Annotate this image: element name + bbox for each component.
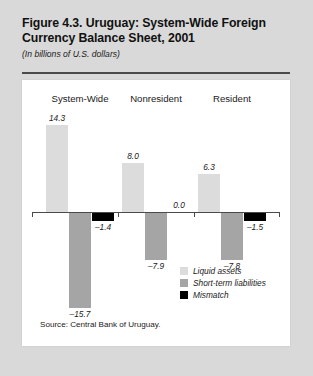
- zero-axis-line: [32, 212, 280, 213]
- axis-tick-1: [118, 213, 119, 217]
- value-label-liquid-assets-resident: 6.3: [203, 162, 215, 172]
- legend-swatch-short-term-liabilities: [180, 279, 188, 287]
- legend-label: Short-term liabilities: [193, 278, 266, 288]
- value-label-short-term-liabilities-nonresident: –7.9: [148, 261, 164, 271]
- source-note: Source: Central Bank of Uruguay.: [40, 320, 160, 329]
- value-label-mismatch-nonresident: 0.0: [173, 200, 185, 210]
- group-label-resident: Resident: [213, 93, 251, 104]
- value-label-mismatch-system-wide: –1.4: [95, 222, 111, 232]
- figure-subtitle: (In billions of U.S. dollars): [22, 49, 290, 59]
- title-divider: [22, 72, 290, 74]
- axis-tick-2: [194, 213, 195, 217]
- value-label-mismatch-resident: –1.5: [247, 222, 263, 232]
- page-title: Figure 4.3. Uruguay: System-Wide Foreign…: [22, 16, 290, 46]
- axis-tick-3: [279, 213, 280, 217]
- bar-mismatch-resident: [244, 212, 266, 221]
- plot-area: System-WideNonresidentResident14.38.06.3…: [22, 80, 290, 346]
- bar-liquid-assets-system-wide: [46, 125, 68, 212]
- value-label-liquid-assets-nonresident: 8.0: [127, 151, 139, 161]
- bar-short-term-liabilities-resident: [221, 212, 243, 260]
- bar-liquid-assets-resident: [198, 174, 220, 212]
- legend-item: Liquid assets: [180, 265, 266, 276]
- legend-label: Liquid assets: [193, 266, 241, 276]
- bar-mismatch-system-wide: [92, 212, 114, 221]
- chart-legend: Liquid assets Short-term liabilities Mis…: [180, 265, 266, 301]
- figure-title-line-1: Figure 4.3. Uruguay: System-Wide Foreign: [22, 16, 266, 30]
- group-label-system-wide: System-Wide: [51, 93, 108, 104]
- legend-item: Mismatch: [180, 289, 266, 300]
- legend-swatch-liquid-assets: [180, 267, 188, 275]
- legend-swatch-mismatch: [180, 291, 188, 299]
- figure-container: Figure 4.3. Uruguay: System-Wide Foreign…: [0, 0, 313, 376]
- axis-tick-0: [32, 213, 33, 217]
- value-label-short-term-liabilities-system-wide: –15.7: [70, 309, 91, 319]
- legend-label: Mismatch: [193, 290, 229, 300]
- legend-item: Short-term liabilities: [180, 277, 266, 288]
- value-label-liquid-assets-system-wide: 14.3: [49, 113, 65, 123]
- group-label-nonresident: Nonresident: [130, 93, 182, 104]
- chart-panel: System-WideNonresidentResident14.38.06.3…: [22, 80, 290, 346]
- figure-title-line-2: Currency Balance Sheet, 2001: [22, 31, 195, 45]
- bar-short-term-liabilities-system-wide: [69, 212, 91, 308]
- bar-liquid-assets-nonresident: [122, 163, 144, 212]
- figure-title-block: Figure 4.3. Uruguay: System-Wide Foreign…: [22, 16, 290, 59]
- bar-short-term-liabilities-nonresident: [145, 212, 167, 260]
